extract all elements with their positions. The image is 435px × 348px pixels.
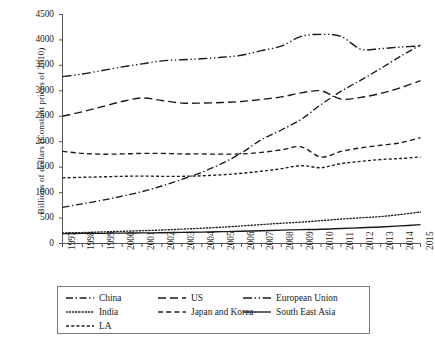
- y-axis-tick-label: 0: [49, 239, 54, 248]
- x-axis-tick-label: 1997: [67, 231, 77, 250]
- series-line-european-union: [63, 34, 421, 76]
- x-axis-tick-label: 2001: [146, 231, 156, 250]
- legend-label: India: [99, 307, 118, 317]
- legend-item-japan-and-korea[interactable]: Japan and Korea: [158, 305, 253, 319]
- y-axis-tick-label: 3500: [35, 60, 54, 69]
- legend-item-south-east-asia[interactable]: South East Asia: [243, 305, 335, 319]
- chart-legend: ChinaUSEuropean UnionIndiaJapan and Kore…: [57, 286, 370, 334]
- legend-label: LA: [99, 321, 112, 331]
- series-line-la: [63, 157, 421, 178]
- x-axis-tick-label: 2013: [385, 231, 395, 250]
- x-axis-tick-label: 2007: [265, 231, 275, 250]
- legend-item-china[interactable]: China: [66, 291, 121, 305]
- x-axis-tick-label: 2014: [405, 231, 415, 250]
- y-axis-tick-label: 2000: [35, 137, 54, 146]
- x-axis-tick-label: 2011: [345, 231, 355, 249]
- x-axis-tick-label: 2004: [206, 231, 216, 250]
- legend-line-swatch: [66, 307, 94, 317]
- y-axis-tick-label: 2500: [35, 111, 54, 120]
- legend-label: European Union: [276, 293, 338, 303]
- legend-item-la[interactable]: LA: [66, 319, 112, 333]
- series-line-japan-and-korea: [63, 138, 421, 157]
- x-axis-tick-label: 2009: [305, 231, 315, 250]
- legend-label: China: [99, 293, 121, 303]
- legend-label: South East Asia: [276, 307, 335, 317]
- series-line-china: [63, 45, 421, 207]
- y-axis-tick-label: 500: [40, 213, 54, 222]
- x-axis-tick-label: 2008: [285, 231, 295, 250]
- legend-line-swatch: [66, 321, 94, 331]
- legend-line-swatch: [243, 293, 271, 303]
- legend-line-swatch: [158, 307, 186, 317]
- x-axis-tick-label: 2005: [226, 231, 236, 250]
- x-axis-tick-label: 2015: [425, 231, 435, 250]
- legend-line-swatch: [158, 293, 186, 303]
- legend-item-european-union[interactable]: European Union: [243, 291, 338, 305]
- y-axis-tick-label: 4500: [35, 10, 54, 19]
- x-axis-tick-label: 1998: [86, 231, 96, 250]
- x-axis-tick-label: 2006: [246, 231, 256, 250]
- y-axis-tick-label: 1000: [35, 188, 54, 197]
- y-axis-tick-label: 4000: [35, 35, 54, 44]
- series-line-us: [63, 81, 421, 117]
- legend-line-swatch: [243, 307, 271, 317]
- y-axis-tick-label: 3000: [35, 86, 54, 95]
- x-axis-tick-label: 2000: [126, 231, 136, 250]
- x-axis-tick-label: 2002: [166, 231, 176, 250]
- legend-item-india[interactable]: India: [66, 305, 118, 319]
- series-line-india: [63, 212, 421, 233]
- legend-item-us[interactable]: US: [158, 291, 203, 305]
- x-axis-tick-label: 2003: [186, 231, 196, 250]
- x-axis-tick-label: 1999: [106, 231, 116, 250]
- legend-line-swatch: [66, 293, 94, 303]
- x-axis-tick-label: 2012: [365, 231, 375, 250]
- x-axis-tick-label: 2010: [325, 231, 335, 250]
- y-axis-tick-label: 1500: [35, 162, 54, 171]
- legend-label: US: [191, 293, 203, 303]
